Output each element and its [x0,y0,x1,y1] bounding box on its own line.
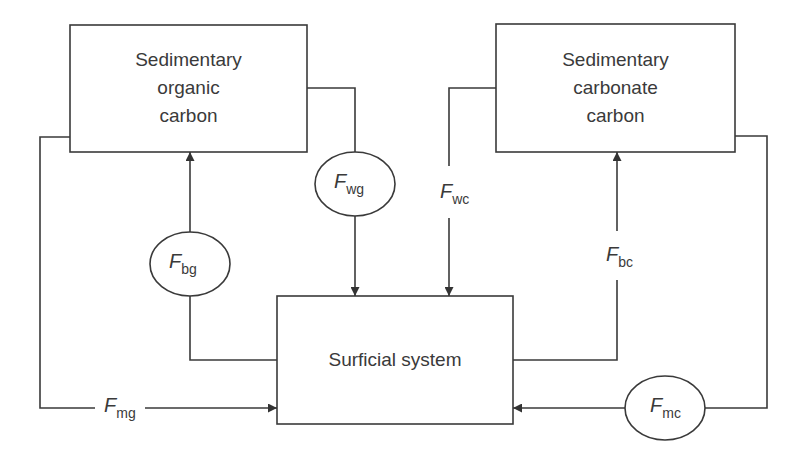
label-line: Sedimentary [496,46,735,74]
flux-wg-line-upper [307,88,355,152]
label-line: carbonate [496,74,735,102]
flux-symbol: F [169,250,181,272]
flux-symbol: F [650,394,662,416]
label-line: Sedimentary [70,46,307,74]
flux-wc-line-upper [449,88,496,166]
flux-subscript: bc [618,254,633,270]
flux-mg-line [40,137,95,408]
flux-label-mc: Fmc [650,394,681,421]
label-line: organic [70,74,307,102]
flux-bg-line-lower [190,296,277,360]
flux-subscript: wg [346,181,364,197]
label-sedimentary-organic-carbon: Sedimentary organic carbon [70,46,307,130]
flux-label-bg: Fbg [169,250,197,277]
flux-subscript: mc [662,405,681,421]
flux-symbol: F [440,180,452,202]
label-line: Surficial system [277,346,513,374]
label-line: carbon [70,102,307,130]
flux-label-bc: Fbc [606,243,633,270]
flux-subscript: mg [116,405,135,421]
label-surficial-system: Surficial system [277,346,513,374]
flux-label-mg: Fmg [104,394,136,421]
flux-symbol: F [334,170,346,192]
flux-label-wg: Fwg [334,170,364,197]
label-sedimentary-carbonate-carbon: Sedimentary carbonate carbon [496,46,735,130]
flux-symbol: F [606,243,618,265]
flux-subscript: wc [452,191,469,207]
flux-symbol: F [104,394,116,416]
flux-subscript: bg [181,261,197,277]
label-line: carbon [496,102,735,130]
flux-label-wc: Fwc [440,180,469,207]
flux-mc-line-upper [705,136,767,408]
flux-bc-line-lower [513,280,617,360]
